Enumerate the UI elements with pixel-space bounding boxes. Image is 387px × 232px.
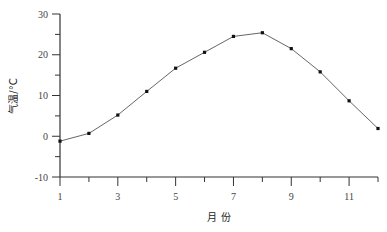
series-line bbox=[60, 33, 378, 141]
y-tick-label: 10 bbox=[38, 90, 48, 101]
data-point-marker bbox=[261, 31, 264, 34]
ticks: 3020100-101357911 bbox=[35, 9, 378, 203]
y-tick-label: 30 bbox=[38, 9, 48, 20]
x-tick-label: 5 bbox=[173, 191, 178, 202]
data-point-marker bbox=[290, 47, 293, 50]
x-tick-label: 3 bbox=[115, 191, 120, 202]
data-point-marker bbox=[174, 67, 177, 70]
x-tick-label: 7 bbox=[231, 191, 236, 202]
data-point-marker bbox=[347, 99, 350, 102]
data-point-marker bbox=[145, 90, 148, 93]
y-axis-title: 气温/°C bbox=[7, 78, 19, 113]
y-tick-label: 20 bbox=[38, 49, 48, 60]
data-point-marker bbox=[232, 35, 235, 38]
plot-area bbox=[58, 31, 379, 143]
data-point-marker bbox=[58, 140, 61, 143]
data-point-marker bbox=[376, 127, 379, 130]
x-tick-label: 1 bbox=[58, 191, 63, 202]
x-axis-title: 月 份 bbox=[207, 212, 230, 223]
data-point-marker bbox=[116, 113, 119, 116]
data-point-marker bbox=[87, 132, 90, 135]
temperature-line-chart: 3020100-101357911 月 份 气温/°C bbox=[0, 0, 387, 232]
x-tick-label: 9 bbox=[289, 191, 294, 202]
x-tick-label: 11 bbox=[344, 191, 354, 202]
data-point-marker bbox=[319, 70, 322, 73]
y-tick-label: 0 bbox=[43, 131, 48, 142]
data-point-marker bbox=[203, 51, 206, 54]
axes bbox=[60, 14, 378, 177]
y-tick-label: -10 bbox=[35, 172, 48, 183]
